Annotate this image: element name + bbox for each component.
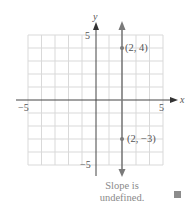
y-axis (93, 22, 99, 176)
x-tick-max: 5 (159, 103, 164, 113)
end-of-example-mark (174, 191, 181, 198)
y-tick-max: 5 (85, 31, 90, 41)
x-axis-label: x (180, 95, 184, 105)
slope-annotation: Slope is undefined. (92, 180, 152, 204)
x-tick-min: −5 (18, 103, 29, 113)
x-axis (16, 97, 178, 103)
annotation-line-1: Slope is (92, 180, 152, 192)
point-2-neg3 (120, 137, 124, 141)
annotation-line-2: undefined. (92, 192, 152, 204)
point-label-2-neg3: (2, −3) (127, 134, 156, 145)
y-axis-label: y (93, 12, 97, 22)
point-label-2-4: (2, 4) (125, 43, 148, 54)
y-tick-min: −5 (80, 160, 91, 170)
point-2-4 (120, 46, 124, 50)
